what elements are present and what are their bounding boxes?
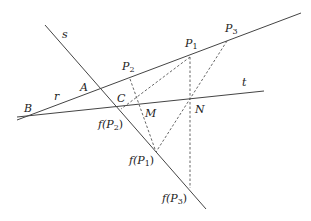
solid-lines xyxy=(17,13,301,209)
line-s xyxy=(45,25,206,209)
point-label-B: B xyxy=(23,102,32,115)
diagram-svg: srtABCMNP1P2P3f(P2)f(P1)f(P3) xyxy=(0,0,311,221)
line-label-s: s xyxy=(62,28,68,41)
point-label-fP3: f(P3) xyxy=(161,192,187,206)
geometry-diagram: srtABCMNP1P2P3f(P2)f(P1)f(P3) xyxy=(0,0,311,221)
point-label-N: N xyxy=(194,103,205,116)
point-label-P1: P1 xyxy=(184,37,198,51)
point-label-M: M xyxy=(144,107,157,120)
point-label-P3: P3 xyxy=(224,22,238,36)
point-label-fP1: f(P1) xyxy=(128,154,154,168)
labels: srtABCMNP1P2P3f(P2)f(P1)f(P3) xyxy=(23,22,247,206)
point-label-fP2: f(P2) xyxy=(97,118,123,132)
point-label-C: C xyxy=(117,92,126,105)
line-label-r: r xyxy=(54,90,60,103)
point-label-A: A xyxy=(79,81,88,94)
line-r xyxy=(17,13,301,120)
point-label-P2: P2 xyxy=(121,60,135,74)
line-label-t: t xyxy=(242,76,247,89)
